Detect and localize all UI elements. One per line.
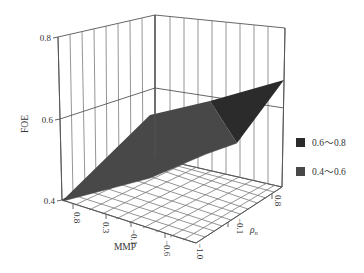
legend-swatch-low <box>296 167 305 176</box>
surface-plane <box>63 80 284 201</box>
surface-band-low <box>63 101 237 201</box>
legend-label-low: 0.4～0.6 <box>312 167 346 177</box>
x-axis: 0.8 0.3 −0.1 −0.6 MMP <box>62 200 196 257</box>
legend: 0.6～0.8 0.4～0.6 <box>296 138 346 177</box>
x-tick-1: 0.3 <box>101 222 111 234</box>
z-tick-04: 0.4 <box>44 196 56 206</box>
legend-item-high: 0.6～0.8 <box>296 138 346 148</box>
x-axis-label: MMP <box>114 242 136 252</box>
z-tick-08: 0.8 <box>40 33 52 43</box>
z-axis-label: FOE <box>20 115 30 133</box>
legend-item-low: 0.4～0.6 <box>296 167 346 177</box>
y-tick-1: −0.1 <box>235 218 245 234</box>
surface-chart: 0.8 0.6 0.4 FOE 0.8 0.3 −0.1 −0.6 MMP −1… <box>0 0 364 273</box>
legend-label-high: 0.6～0.8 <box>312 138 346 148</box>
legend-swatch-high <box>296 138 305 147</box>
y-axis: −1.0 −0.1 0.8 ρn <box>195 187 283 260</box>
x-tick-0: 0.8 <box>72 212 82 224</box>
y-tick-2: 0.8 <box>273 195 283 207</box>
x-tick-3: −0.6 <box>162 240 172 257</box>
y-axis-label: ρn <box>249 225 258 236</box>
z-tick-06: 0.6 <box>42 115 54 125</box>
y-tick-0: −1.0 <box>195 243 205 260</box>
